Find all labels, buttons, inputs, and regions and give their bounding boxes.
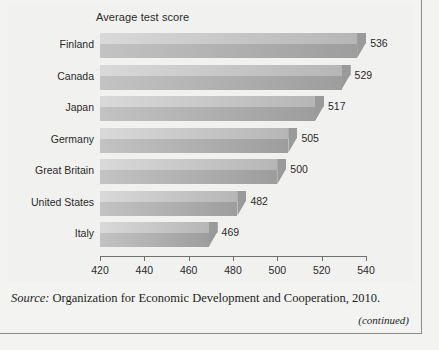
bar xyxy=(100,65,342,90)
source-body: Organization for Economic Development an… xyxy=(53,291,380,305)
bar-cap xyxy=(237,191,246,216)
value-label: 529 xyxy=(355,69,373,81)
frame-bottom-rule xyxy=(0,333,422,334)
bar-cap xyxy=(277,159,286,184)
x-axis-tick-label: 520 xyxy=(313,264,331,276)
category-label-wrap: Finland xyxy=(8,31,94,61)
category-label-wrap: Great Britain xyxy=(8,157,94,187)
bar-front-face xyxy=(100,139,288,153)
value-label: 469 xyxy=(222,226,240,238)
bar-top-face xyxy=(100,33,357,44)
bar-front-face xyxy=(100,233,209,247)
value-label: 482 xyxy=(250,195,268,207)
x-axis-tick xyxy=(100,256,101,261)
bar-top-face xyxy=(100,65,342,76)
category-label: Germany xyxy=(8,133,94,145)
bar-top-face xyxy=(100,222,209,233)
bar-row: Italy469 xyxy=(0,220,439,250)
bar-front-face xyxy=(100,76,342,90)
category-label: Japan xyxy=(8,101,94,113)
bar-front-face xyxy=(100,44,357,58)
bar-cap xyxy=(288,128,297,153)
bar-cap xyxy=(342,65,351,90)
bar-top-face xyxy=(100,191,237,202)
bar-row: Japan517 xyxy=(0,94,439,124)
x-axis-tick-label: 440 xyxy=(136,264,154,276)
bar-row: Germany505 xyxy=(0,126,439,156)
bar xyxy=(100,96,315,121)
category-label-wrap: Italy xyxy=(8,220,94,250)
bar-row: United States482 xyxy=(0,189,439,219)
bar xyxy=(100,159,277,184)
category-label: Finland xyxy=(8,38,94,50)
x-axis-tick xyxy=(233,256,234,261)
category-label: Italy xyxy=(8,227,94,239)
category-label-wrap: Canada xyxy=(8,63,94,93)
x-axis-tick xyxy=(189,256,190,261)
value-label: 517 xyxy=(328,100,346,112)
x-axis-tick-label: 540 xyxy=(357,264,375,276)
bar-top-face xyxy=(100,96,315,107)
value-label: 505 xyxy=(301,132,319,144)
x-axis-tick xyxy=(322,256,323,261)
bar-row: Canada529 xyxy=(0,63,439,93)
bar-top-face xyxy=(100,128,288,139)
bar-row: Great Britain500 xyxy=(0,157,439,187)
bar-front-face xyxy=(100,170,277,184)
category-label: United States xyxy=(8,196,94,208)
continued-note: (continued) xyxy=(358,314,409,326)
x-axis-tick-label: 420 xyxy=(91,264,109,276)
bar-top-face xyxy=(100,159,277,170)
category-label-wrap: Japan xyxy=(8,94,94,124)
plot-area: Finland536Canada529Japan517Germany505Gre… xyxy=(0,0,439,285)
category-label: Canada xyxy=(8,70,94,82)
figure-container: Average test score Finland536Canada529Ja… xyxy=(0,0,439,350)
x-axis-tick xyxy=(144,256,145,261)
x-axis: 420440460480500520540 xyxy=(0,256,439,284)
x-axis-tick-label: 480 xyxy=(224,264,242,276)
x-axis-tick-label: 460 xyxy=(180,264,198,276)
source-note: Source: Organization for Economic Develo… xyxy=(11,291,407,306)
value-label: 536 xyxy=(370,37,388,49)
value-label: 500 xyxy=(290,163,308,175)
source-label: Source: xyxy=(11,291,49,305)
category-label: Great Britain xyxy=(8,164,94,176)
x-axis-tick-label: 500 xyxy=(269,264,287,276)
bar-cap xyxy=(357,33,366,58)
bar xyxy=(100,222,209,247)
bar xyxy=(100,191,237,216)
x-axis-tick xyxy=(366,256,367,261)
x-axis-tick xyxy=(277,256,278,261)
category-label-wrap: United States xyxy=(8,189,94,219)
bar-front-face xyxy=(100,107,315,121)
bar-cap xyxy=(315,96,324,121)
bar-front-face xyxy=(100,202,237,216)
bar-cap xyxy=(209,222,218,247)
category-label-wrap: Germany xyxy=(8,126,94,156)
bar-row: Finland536 xyxy=(0,31,439,61)
bar xyxy=(100,33,357,58)
bar xyxy=(100,128,288,153)
